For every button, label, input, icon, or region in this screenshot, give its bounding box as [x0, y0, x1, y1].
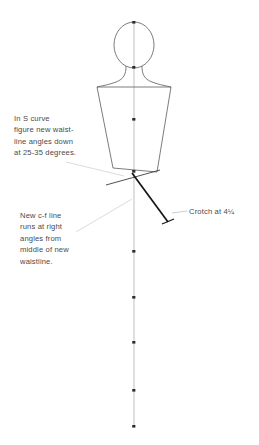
tick-dot: [132, 296, 135, 299]
tick-dot: [132, 66, 135, 69]
neck-right-curve: [142, 66, 171, 87]
center-front-line: [132, 173, 168, 222]
tick-dot: [132, 118, 135, 121]
leader-line-waistline: [66, 162, 124, 176]
tick-dot: [132, 341, 135, 344]
tick-dot: [132, 250, 135, 253]
annotation-cf-line-note: New c-f line runs at right angles from m…: [20, 210, 100, 267]
crotch-tick: [162, 219, 174, 224]
annotation-crotch-note: Crotch at 4¼: [189, 206, 259, 217]
tick-dot: [132, 21, 135, 24]
tick-dot: [132, 425, 135, 428]
annotation-waistline-note: In S curve figure new waist- line angles…: [14, 113, 100, 159]
tick-dot: [132, 389, 135, 392]
torso-right-side: [157, 87, 171, 172]
neck-left-curve: [97, 66, 126, 87]
leader-line-crotch: [172, 211, 187, 213]
tick-dot: [132, 170, 135, 173]
